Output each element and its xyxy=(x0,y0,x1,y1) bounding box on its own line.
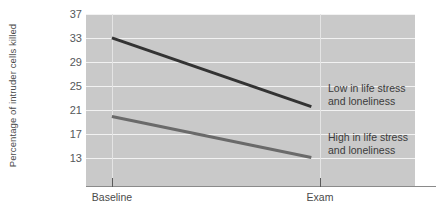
annotation-low-stress-line1: Low in life stress xyxy=(328,82,406,95)
y-tick-label: 37 xyxy=(44,8,82,20)
y-tick-label: 33 xyxy=(44,32,82,44)
annotation-high-stress-line1: High in life stress xyxy=(328,131,408,144)
y-axis-title-wrap: Percentage of intruder cells killed xyxy=(2,0,24,190)
annotation-low-stress-line2: and loneliness xyxy=(328,95,395,108)
x-axis-line xyxy=(86,186,436,187)
y-tick-label: 29 xyxy=(44,56,82,68)
x-tick-baseline xyxy=(112,178,113,187)
vertical-gridline-exam xyxy=(320,14,321,186)
gridline xyxy=(86,14,415,15)
x-tick-exam xyxy=(320,178,321,187)
y-axis-tick-labels: 37 33 29 25 21 17 13 xyxy=(42,0,82,190)
y-tick-label: 25 xyxy=(44,80,82,92)
chart-container: Percentage of intruder cells killed 37 3… xyxy=(0,0,436,211)
y-tick-label: 17 xyxy=(44,128,82,140)
gridline xyxy=(86,62,415,63)
gridline xyxy=(86,158,415,159)
y-tick-label: 21 xyxy=(44,104,82,116)
gridline xyxy=(86,110,415,111)
annotation-high-stress-line2: and loneliness xyxy=(328,144,395,157)
x-tick-label-exam: Exam xyxy=(307,191,334,203)
y-tick-label: 13 xyxy=(44,152,82,164)
gridline xyxy=(86,38,415,39)
x-tick-label-baseline: Baseline xyxy=(92,191,132,203)
y-axis-title: Percentage of intruder cells killed xyxy=(8,23,19,166)
vertical-gridline-baseline xyxy=(112,14,113,186)
